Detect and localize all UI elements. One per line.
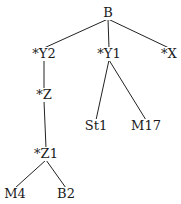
edge-z-z1 xyxy=(44,101,46,148)
edge-b-y2 xyxy=(44,19,108,48)
edge-b-y1 xyxy=(108,19,109,48)
edge-y1-st1 xyxy=(96,60,109,120)
node-m4: M4 xyxy=(3,187,27,201)
node-m17: M17 xyxy=(130,119,162,133)
edge-y1-m17 xyxy=(109,60,146,120)
edge-b-x xyxy=(108,19,169,48)
edge-z1-b2 xyxy=(46,160,66,188)
node-x: *X xyxy=(160,47,178,61)
tree-edges xyxy=(0,0,181,204)
node-b2: B2 xyxy=(56,187,76,201)
node-z: *Z xyxy=(35,88,53,102)
node-y1: *Y1 xyxy=(96,47,121,61)
node-st1: St1 xyxy=(84,119,108,133)
node-z1: *Z1 xyxy=(33,147,59,161)
node-b: B xyxy=(102,6,114,20)
tree-diagram: B *Y2 *Y1 *X *Z St1 M17 *Z1 M4 B2 xyxy=(0,0,181,204)
node-y2: *Y2 xyxy=(31,47,56,61)
edge-z1-m4 xyxy=(15,160,46,188)
